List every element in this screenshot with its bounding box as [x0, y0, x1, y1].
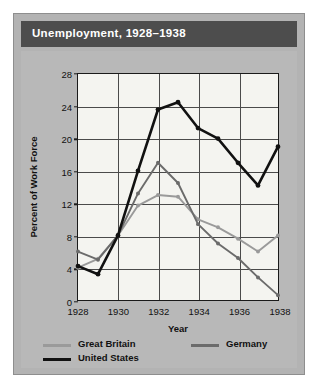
data-point: [136, 191, 140, 195]
x-tick-label: 1932: [148, 306, 169, 317]
y-tick-label: 28: [61, 69, 72, 80]
data-point: [236, 237, 240, 241]
legend-label-germany: Germany: [226, 338, 267, 349]
data-point: [176, 181, 180, 185]
y-tick-label: 4: [67, 264, 72, 275]
chart-title-bar: Unemployment, 1928–1938: [21, 21, 297, 47]
series-layer: [78, 74, 278, 300]
data-point: [136, 204, 140, 208]
x-tick-label: 1928: [67, 306, 88, 317]
chart-legend: Great Britain Germany United States: [43, 339, 293, 369]
data-point: [236, 256, 240, 260]
data-point: [196, 222, 200, 226]
data-point: [76, 264, 81, 269]
x-tick-label: 1934: [189, 306, 210, 317]
legend-label-great-britain: Great Britain: [78, 338, 136, 349]
y-tick-label: 8: [67, 231, 72, 242]
x-tick-label: 1930: [108, 306, 129, 317]
data-point: [236, 160, 241, 165]
data-point: [256, 275, 260, 279]
x-tick-label: 1936: [229, 306, 250, 317]
legend-swatch-germany: [191, 344, 219, 347]
data-point: [216, 242, 220, 246]
y-tick-label: 12: [61, 199, 72, 210]
y-axis-label: Percent of Work Force: [28, 136, 39, 237]
chart-panel: Percent of Work Force Year 0481216202428…: [21, 51, 297, 368]
x-axis-label: Year: [168, 323, 188, 334]
y-tick-label: 20: [61, 134, 72, 145]
data-point: [76, 250, 80, 254]
data-point: [116, 233, 121, 238]
y-tick-mark: [74, 301, 78, 302]
legend-swatch-great-britain: [43, 344, 71, 347]
data-point: [276, 293, 280, 297]
data-point: [216, 225, 220, 229]
data-point: [156, 193, 160, 197]
chart-figure: Unemployment, 1928–1938 Percent of Work …: [13, 13, 305, 375]
legend-swatch-united-states: [43, 358, 71, 362]
data-point: [96, 258, 100, 262]
data-point: [256, 250, 260, 254]
data-point: [136, 168, 141, 173]
data-point: [156, 107, 161, 112]
data-point: [256, 183, 261, 188]
data-point: [216, 136, 221, 141]
legend-label-united-states: United States: [78, 352, 139, 363]
data-point: [176, 195, 180, 199]
data-point: [96, 272, 101, 277]
data-point: [176, 100, 181, 105]
data-point: [276, 233, 280, 237]
data-point: [156, 161, 160, 165]
y-tick-label: 16: [61, 166, 72, 177]
data-point: [276, 144, 281, 149]
x-tick-label: 1938: [269, 306, 290, 317]
y-tick-label: 24: [61, 101, 72, 112]
plot-area: 0481216202428 192819301932193419361938: [77, 73, 279, 301]
data-point: [196, 126, 201, 131]
page-title: Unemployment, 1928–1938: [32, 27, 186, 39]
